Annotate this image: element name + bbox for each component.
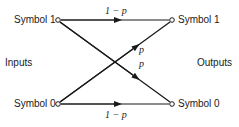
- edge-bottom-probability-label: 1 − p: [105, 110, 127, 120]
- input-symbol-1-label: Symbol 1: [14, 15, 56, 25]
- edge-cross-down-probability-label: p: [139, 59, 144, 69]
- node-output-top: [170, 18, 175, 23]
- outputs-label: Outputs: [197, 58, 232, 68]
- edge-cross-up-probability-label: p: [139, 45, 144, 55]
- inputs-label: Inputs: [5, 58, 32, 68]
- node-output-bottom: [170, 102, 175, 107]
- node-input-top: [56, 18, 61, 23]
- channel-diagram: Symbol 1 Symbol 0 Symbol 1 Symbol 0 Inpu…: [0, 0, 239, 127]
- input-symbol-0-label: Symbol 0: [14, 99, 56, 109]
- output-symbol-0-label: Symbol 0: [178, 99, 220, 109]
- output-symbol-1-label: Symbol 1: [178, 15, 220, 25]
- node-input-bottom: [56, 102, 61, 107]
- edge-top-probability-label: 1 − p: [105, 6, 127, 16]
